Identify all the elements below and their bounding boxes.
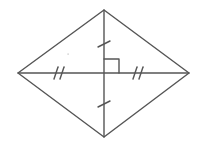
rhombus-diagram bbox=[0, 0, 197, 144]
scan-speck bbox=[68, 54, 69, 55]
right-angle-marker bbox=[104, 59, 119, 73]
rhombus-figure bbox=[18, 10, 189, 137]
